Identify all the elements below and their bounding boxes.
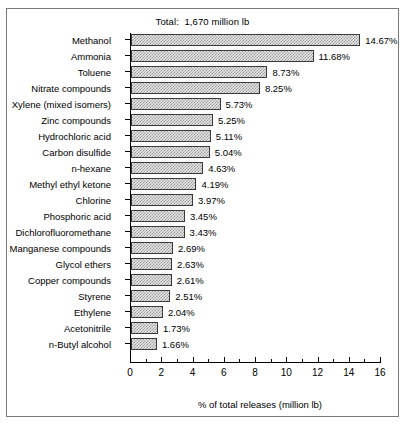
category-label: Zinc compounds — [0, 114, 111, 127]
bar-value-label: 2.69% — [178, 242, 205, 255]
x-tick-minor — [364, 359, 365, 363]
bar-value-label: 14.67% — [365, 34, 397, 47]
bar — [131, 82, 260, 94]
category-label: Dichlorofluoromethane — [0, 226, 111, 239]
category-label: Manganese compounds — [0, 242, 111, 255]
bar — [131, 210, 185, 222]
category-label: Nitrate compounds — [0, 82, 111, 95]
bar-row: Phosphoric acid3.45% — [124, 209, 394, 225]
bar-value-label: 3.43% — [190, 226, 217, 239]
category-label: Phosphoric acid — [0, 210, 111, 223]
bar-value-label: 2.04% — [168, 306, 195, 319]
bar-value-label: 11.68% — [319, 50, 351, 63]
bar-row: Dichlorofluoromethane3.43% — [124, 225, 394, 241]
category-label: Hydrochloric acid — [0, 130, 111, 143]
y-tick-mark — [125, 343, 130, 344]
bar — [131, 338, 157, 350]
bar-value-label: 3.45% — [190, 210, 217, 223]
bar-value-label: 8.73% — [272, 66, 299, 79]
category-label: Toluene — [0, 66, 111, 79]
bar-value-label: 8.25% — [265, 82, 292, 95]
y-tick-mark — [125, 167, 130, 168]
x-tick-label: 6 — [209, 367, 239, 378]
category-label: n-hexane — [0, 162, 111, 175]
y-tick-mark — [125, 279, 130, 280]
bar-value-label: 1.73% — [163, 322, 190, 335]
y-tick-mark — [125, 311, 130, 312]
bar — [131, 34, 360, 46]
x-tick-label: 12 — [303, 367, 333, 378]
y-tick-mark — [125, 183, 130, 184]
bar-row: Zinc compounds5.25% — [124, 113, 394, 129]
bar — [131, 194, 193, 206]
bar-value-label: 2.61% — [177, 274, 204, 287]
category-label: n-Butyl alcohol — [0, 338, 111, 351]
y-tick-mark — [125, 55, 130, 56]
bar-value-label: 1.66% — [162, 338, 189, 351]
chart-title: Total: 1,670 million lb — [7, 16, 398, 27]
x-tick-minor — [177, 359, 178, 363]
x-tick-label: 2 — [146, 367, 176, 378]
bar-value-label: 5.73% — [226, 98, 253, 111]
y-tick-mark — [125, 135, 130, 136]
x-tick-label: 14 — [334, 367, 364, 378]
x-tick-major — [255, 357, 256, 363]
y-tick-mark — [125, 103, 130, 104]
bar-row: Nitrate compounds8.25% — [124, 81, 394, 97]
bar — [131, 146, 210, 158]
bar-row: Styrene2.51% — [124, 289, 394, 305]
bar-row: n-hexane4.63% — [124, 161, 394, 177]
category-label: Ammonia — [0, 50, 111, 63]
bar-value-label: 4.19% — [201, 178, 228, 191]
y-tick-mark — [125, 215, 130, 216]
y-tick-mark — [125, 151, 130, 152]
bar — [131, 130, 211, 142]
bar — [131, 290, 170, 302]
x-tick-label: 10 — [271, 367, 301, 378]
bar-value-label: 2.63% — [177, 258, 204, 271]
bar-value-label: 2.51% — [175, 290, 202, 303]
x-tick-label: 8 — [240, 367, 270, 378]
x-tick-minor — [333, 359, 334, 363]
category-label: Methyl ethyl ketone — [0, 178, 111, 191]
y-tick-mark — [125, 71, 130, 72]
category-label: Copper compounds — [0, 274, 111, 287]
category-label: Chlorine — [0, 194, 111, 207]
bar-row: Chlorine3.97% — [124, 193, 394, 209]
bar-row: Toluene8.73% — [124, 65, 394, 81]
bar-row: Hydrochloric acid5.11% — [124, 129, 394, 145]
bar-row: Acetonitrile1.73% — [124, 321, 394, 337]
bar-row: Manganese compounds2.69% — [124, 241, 394, 257]
category-label: Glycol ethers — [0, 258, 111, 271]
bar — [131, 114, 213, 126]
x-tick-major — [318, 357, 319, 363]
x-tick-major — [161, 357, 162, 363]
bar — [131, 98, 221, 110]
bar — [131, 226, 185, 238]
x-tick-label: 16 — [365, 367, 395, 378]
y-tick-mark — [125, 199, 130, 200]
x-tick-major — [130, 357, 131, 363]
x-tick-major — [193, 357, 194, 363]
y-tick-mark — [125, 247, 130, 248]
category-label: Ethylene — [0, 306, 111, 319]
category-label: Methanol — [0, 34, 111, 47]
bar-row: Ammonia11.68% — [124, 49, 394, 65]
x-tick-minor — [146, 359, 147, 363]
category-label: Acetonitrile — [0, 322, 111, 335]
bar-value-label: 5.25% — [218, 114, 245, 127]
bar-row: Copper compounds2.61% — [124, 273, 394, 289]
x-tick-minor — [271, 359, 272, 363]
bar-row: Carbon disulfide5.04% — [124, 145, 394, 161]
bar-value-label: 5.04% — [215, 146, 242, 159]
y-tick-mark — [125, 263, 130, 264]
x-tick-major — [380, 357, 381, 363]
x-tick-minor — [239, 359, 240, 363]
bar — [131, 242, 173, 254]
y-tick-mark — [125, 295, 130, 296]
bar — [131, 322, 158, 334]
y-tick-mark — [125, 39, 130, 40]
bar-row: Ethylene2.04% — [124, 305, 394, 321]
bar — [131, 162, 203, 174]
bar-row: Methyl ethyl ketone4.19% — [124, 177, 394, 193]
